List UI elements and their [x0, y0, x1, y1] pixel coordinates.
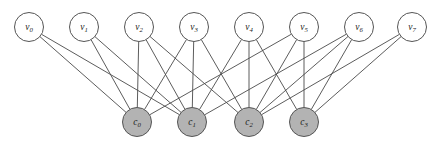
- graph-node-c1: c1: [178, 108, 207, 137]
- bipartite-graph-figure: v0v1v2v3v4v5v6v7c0c1c2c3: [0, 0, 440, 144]
- graph-edge-v6-c1: [205, 34, 347, 115]
- graph-node-v0: v0: [15, 13, 44, 42]
- graph-canvas: v0v1v2v3v4v5v6v7c0c1c2c3: [0, 0, 440, 144]
- graph-node-v7: v7: [398, 13, 427, 42]
- graph-node-v5: v5: [290, 13, 319, 42]
- graph-edge-v5-c0: [150, 34, 292, 115]
- graph-node-c3: c3: [290, 108, 319, 137]
- graph-node-v4: v4: [235, 13, 264, 42]
- graph-node-v1: v1: [70, 13, 99, 42]
- graph-edge-v0-c0: [40, 37, 126, 113]
- graph-node-v2: v2: [125, 13, 154, 42]
- graph-edge-v7-c3: [315, 37, 401, 113]
- graph-node-v6: v6: [345, 13, 374, 42]
- graph-node-v3: v3: [180, 13, 209, 42]
- graph-node-c2: c2: [235, 108, 264, 137]
- graph-node-c0: c0: [123, 108, 152, 137]
- edge-layer: [40, 34, 401, 115]
- graph-edge-v7-c2: [262, 34, 400, 114]
- graph-edge-v6-c3: [311, 40, 351, 110]
